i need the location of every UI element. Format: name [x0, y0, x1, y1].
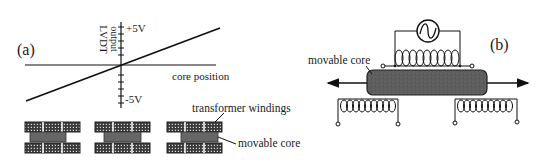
- movable-core-left: [30, 132, 66, 142]
- winding-assembly-right: [167, 113, 236, 153]
- core-label-b: movable core: [308, 55, 370, 67]
- windings-label: transformer windings: [192, 103, 291, 115]
- y-min-label: -5V: [125, 94, 142, 105]
- primary-coil: [395, 50, 459, 66]
- y-axis-label-line2: output: [109, 21, 119, 57]
- panel-a-label: (a): [17, 42, 35, 58]
- output-graph: [25, 22, 220, 108]
- y-axis-label: LVDT output: [93, 20, 115, 60]
- movable-core-right: [181, 132, 218, 142]
- secondary-coil-left: [336, 99, 400, 126]
- winding-assembly-center: [95, 122, 150, 153]
- movable-core-center: [104, 132, 141, 142]
- winding-assembly-left: [25, 122, 80, 153]
- y-max-label: +5V: [126, 23, 146, 34]
- y-axis-label-line1: LVDT: [98, 22, 109, 58]
- panel-b-label: (b): [490, 37, 509, 53]
- core-label-a: movable core: [238, 138, 300, 150]
- movable-core-bar: [367, 70, 487, 95]
- x-axis-label: core position: [172, 71, 229, 82]
- secondary-coil-right: [453, 99, 519, 125]
